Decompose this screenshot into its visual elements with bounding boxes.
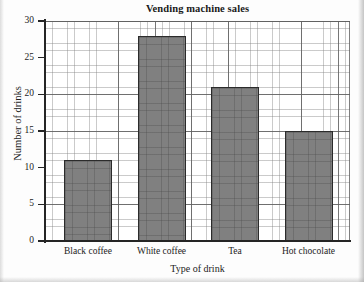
y-tick-mark — [38, 57, 45, 58]
y-tick-mark — [38, 20, 45, 21]
bar-grid-overlay — [286, 132, 332, 240]
x-axis-line — [38, 240, 351, 242]
bar-black-coffee — [64, 160, 112, 241]
y-tick-mark — [38, 240, 45, 241]
bar-grid-overlay — [212, 88, 258, 240]
bar-white-coffee — [138, 36, 186, 241]
plot-border-right — [349, 21, 350, 241]
bar-grid-overlay — [65, 161, 111, 240]
chart-title: Vending machine sales — [45, 3, 350, 14]
plot-border-top — [45, 21, 350, 22]
bar-tea — [211, 87, 259, 241]
bar-grid-overlay — [139, 37, 185, 240]
y-tick-mark — [38, 204, 45, 205]
y-tick-label: 0 — [12, 236, 34, 246]
page-edge-shadow-bottom — [0, 277, 364, 282]
bar-hot-chocolate — [285, 131, 333, 241]
y-tick-mark — [38, 167, 45, 168]
x-axis-title: Type of drink — [45, 263, 350, 274]
page-edge-shadow-left — [0, 0, 4, 282]
y-tick-mark — [38, 130, 45, 131]
y-axis-title: Number of drinks — [12, 49, 23, 199]
y-tick-label: 5 — [12, 199, 34, 209]
page-edge-shadow-right — [358, 0, 364, 282]
x-category-label: Hot chocolate — [259, 246, 359, 256]
y-tick-mark — [38, 94, 45, 95]
y-tick-label: 30 — [12, 16, 34, 26]
plot-area — [45, 21, 350, 241]
chart-page: Vending machine sales 051015202530 Black… — [0, 0, 364, 282]
